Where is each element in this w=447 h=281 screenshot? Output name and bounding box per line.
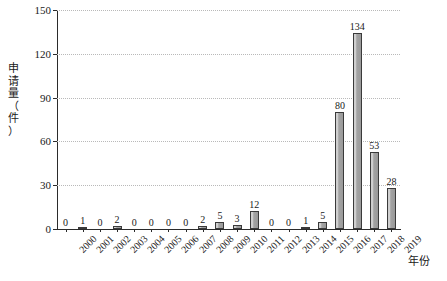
x-tick-label: 2013 (299, 233, 321, 255)
y-axis-title-char: 请 (4, 75, 22, 88)
bar[interactable] (250, 211, 259, 229)
x-tick-mark (83, 229, 84, 232)
bar-value-label: 5 (320, 211, 325, 221)
x-tick-mark (306, 229, 307, 232)
bar-value-label: 5 (217, 211, 222, 221)
x-tick-mark (186, 229, 187, 232)
x-tick-mark (374, 229, 375, 232)
bar[interactable] (215, 222, 224, 229)
x-tick-label: 2000 (76, 233, 98, 255)
bar-value-label: 0 (269, 218, 274, 228)
y-tick-label: 30 (40, 179, 51, 191)
x-axis-line (57, 229, 401, 230)
chart-figure: 申 请 量 （ 件 ） 0306090120150 01020000253120… (0, 0, 447, 281)
x-axis-title: 年份 (408, 252, 430, 268)
bar-value-label: 28 (386, 177, 396, 187)
bar-group[interactable]: 80 (333, 10, 347, 229)
y-tick-label: 60 (40, 135, 51, 147)
bar[interactable] (387, 188, 396, 229)
bar-value-label: 53 (369, 141, 379, 151)
bar-group[interactable]: 0 (127, 10, 141, 229)
bar-value-label: 0 (97, 218, 102, 228)
x-tick-mark (203, 229, 204, 232)
x-tick-mark (237, 229, 238, 232)
bar-group[interactable]: 1 (299, 10, 313, 229)
x-tick-mark (357, 229, 358, 232)
x-tick-mark (340, 229, 341, 232)
bar-group[interactable]: 53 (367, 10, 381, 229)
y-tick-label: 0 (46, 223, 52, 235)
bar-group[interactable]: 5 (213, 10, 227, 229)
bar[interactable] (335, 112, 344, 229)
bar-group[interactable]: 0 (93, 10, 107, 229)
x-tick-mark (117, 229, 118, 232)
bar[interactable] (370, 152, 379, 229)
x-tick-mark (168, 229, 169, 232)
bar-group[interactable]: 0 (264, 10, 278, 229)
bar-value-label: 134 (350, 22, 365, 32)
x-tick-mark (289, 229, 290, 232)
bar-group[interactable]: 2 (110, 10, 124, 229)
bar-group[interactable]: 0 (161, 10, 175, 229)
y-axis-title-char: 申 (4, 62, 22, 75)
bar-group[interactable]: 12 (247, 10, 261, 229)
x-tick-mark (66, 229, 67, 232)
y-tick-label: 90 (40, 92, 51, 104)
bar-group[interactable]: 3 (230, 10, 244, 229)
bar-value-label: 12 (249, 200, 259, 210)
x-tick-mark (220, 229, 221, 232)
y-axis-title-char: ） (4, 125, 22, 138)
y-axis-title-char: 量 (4, 87, 22, 100)
bar-value-label: 0 (63, 218, 68, 228)
y-tick-mark (53, 229, 57, 230)
bar-group[interactable]: 1 (76, 10, 90, 229)
x-tick-mark (391, 229, 392, 232)
bar-value-label: 1 (80, 216, 85, 226)
bar-group[interactable]: 134 (350, 10, 364, 229)
x-tick-mark (323, 229, 324, 232)
x-tick-mark (271, 229, 272, 232)
plot-area: 0306090120150 01020000253120015801345328 (57, 10, 400, 229)
bar-group[interactable]: 0 (59, 10, 73, 229)
bar-value-label: 0 (149, 218, 154, 228)
bar-group[interactable]: 2 (196, 10, 210, 229)
bar-group[interactable]: 28 (384, 10, 398, 229)
x-tick-label: 2006 (179, 233, 201, 255)
bar-group[interactable]: 0 (282, 10, 296, 229)
bar-value-label: 2 (200, 215, 205, 225)
y-axis-title: 申 请 量 （ 件 ） (4, 62, 22, 137)
bar-value-label: 0 (183, 218, 188, 228)
bar[interactable] (318, 222, 327, 229)
bar-series: 01020000253120015801345328 (57, 10, 400, 229)
bar-group[interactable]: 0 (179, 10, 193, 229)
bar-value-label: 0 (132, 218, 137, 228)
y-axis-title-char: 件 (4, 112, 22, 125)
x-tick-label: 2012 (282, 233, 304, 255)
bar-value-label: 3 (235, 214, 240, 224)
bar[interactable] (353, 33, 362, 229)
x-tick-mark (151, 229, 152, 232)
y-tick-label: 120 (35, 48, 52, 60)
bar-value-label: 2 (115, 215, 120, 225)
bar-value-label: 0 (166, 218, 171, 228)
bar-group[interactable]: 0 (144, 10, 158, 229)
bar-value-label: 80 (335, 101, 345, 111)
x-tick-mark (100, 229, 101, 232)
x-tick-mark (254, 229, 255, 232)
bar-group[interactable]: 5 (316, 10, 330, 229)
bar-value-label: 0 (286, 218, 291, 228)
y-axis-title-char: （ (4, 100, 22, 113)
bar-value-label: 1 (303, 216, 308, 226)
y-tick-label: 150 (35, 4, 52, 16)
x-tick-mark (134, 229, 135, 232)
